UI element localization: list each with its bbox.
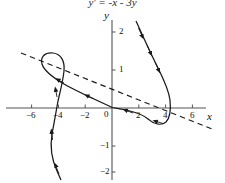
asymptote-dashed-line [21, 53, 212, 129]
y-axis-label: y [104, 9, 109, 21]
x-tick-label-neg4: −4 [53, 110, 63, 120]
x-tick-label-2: 2 [136, 110, 141, 120]
x-axis-label: x [207, 110, 212, 122]
x-tick-label-neg6: −6 [26, 110, 36, 120]
trajectory-right-arrows [125, 28, 163, 124]
origin-label: 0 [104, 109, 109, 119]
figure-root: y' = -x - 3y [0, 0, 225, 183]
upper-right-arrow [147, 45, 151, 54]
plot-area [0, 0, 225, 183]
plot-svg [0, 0, 225, 183]
y-tick-label-neg1: −1 [100, 140, 110, 150]
y-tick-label-neg2: −2 [100, 166, 110, 176]
y-tick-label-2: 2 [119, 26, 124, 36]
x-tick-label-neg2: −2 [80, 110, 90, 120]
trajectory-left-arrows [52, 80, 94, 175]
x-tick-label-6: 6 [190, 110, 195, 120]
x-tick-label-4: 4 [163, 110, 168, 120]
y-tick-label-1: 1 [119, 64, 124, 74]
